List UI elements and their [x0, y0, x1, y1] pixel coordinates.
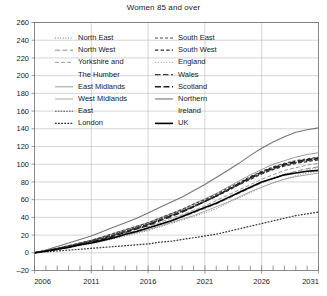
y-tick-label: 80 [21, 178, 29, 187]
legend-label: London [78, 118, 103, 127]
x-tick-label: 2016 [140, 277, 157, 286]
legend-label: South East [178, 33, 216, 42]
x-axis-minor-ticks [35, 266, 319, 271]
legend-label: UK [178, 118, 188, 127]
line-chart: –20020406080100120140160180200220240260 … [0, 0, 327, 296]
legend-label: England [178, 57, 206, 66]
legend-label: The Humber [78, 70, 120, 79]
legend-label: East [78, 106, 94, 115]
x-tick-label: 2011 [83, 277, 99, 286]
legend-label: East Midlands [78, 82, 125, 91]
chart-legend: North EastNorth WestYorkshire andThe Hum… [55, 33, 218, 127]
x-tick-label: 2021 [197, 277, 214, 286]
x-tick-label: 2026 [253, 277, 270, 286]
series-line [35, 159, 319, 253]
legend-label: North East [78, 33, 114, 42]
y-axis-ticks: –20020406080100120140160180200220240260 [16, 18, 34, 275]
y-tick-label: 180 [16, 89, 29, 98]
y-tick-label: 200 [16, 71, 29, 80]
y-tick-label: 240 [16, 36, 29, 45]
y-tick-label: 100 [16, 160, 29, 169]
y-tick-label: 140 [16, 124, 29, 133]
y-tick-label: 260 [16, 18, 29, 27]
legend-label: South West [178, 45, 218, 54]
y-tick-label: 220 [16, 54, 29, 63]
y-tick-label: 0 [25, 248, 29, 257]
series-line [35, 157, 319, 253]
legend-label: Yorkshire and [78, 57, 124, 66]
x-tick-label: 2006 [34, 277, 51, 286]
y-tick-label: 160 [16, 107, 29, 116]
legend-label: North West [78, 45, 116, 54]
y-tick-label: 20 [21, 231, 29, 240]
x-axis-ticks: 200620112016202120262031 [34, 271, 319, 286]
legend-label: Ireland [178, 106, 201, 115]
legend-label: Wales [178, 70, 199, 79]
y-tick-label: 120 [16, 142, 29, 151]
y-tick-label: 60 [21, 195, 29, 204]
legend-label: Scotland [178, 82, 207, 91]
series-line [35, 158, 319, 253]
y-tick-label: 40 [21, 213, 29, 222]
y-tick-label: –20 [16, 266, 29, 275]
series-line [35, 158, 319, 253]
chart-container: Women 85 and over –200204060801001201401… [0, 0, 327, 296]
legend-label: West Midlands [78, 94, 127, 103]
x-tick-label: 2031 [302, 277, 319, 286]
legend-label: Northern [178, 94, 207, 103]
